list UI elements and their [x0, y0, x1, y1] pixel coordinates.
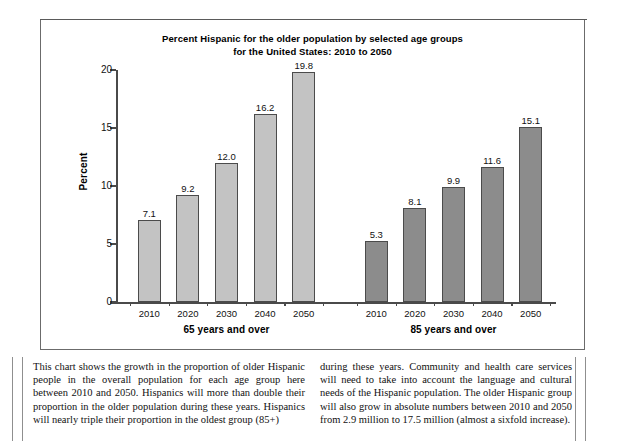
bar: 19.8	[292, 72, 315, 302]
x-axis-label: 2050	[284, 308, 323, 320]
bar: 11.6	[481, 167, 504, 302]
caption-column-right: during these years. Community and health…	[320, 360, 572, 426]
y-tick-label: 10	[101, 179, 112, 192]
bar-value-label: 16.2	[256, 102, 275, 113]
x-tick-mark	[434, 302, 435, 306]
bar-value-label: 9.9	[447, 175, 460, 186]
bar: 12.0	[215, 163, 238, 302]
x-tick-mark	[323, 302, 324, 306]
group-label: 65 years and over	[130, 324, 323, 335]
x-tick-mark	[473, 302, 474, 306]
chart-title-line-2: for the United States: 2010 to 2050	[41, 45, 584, 58]
x-tick-mark	[246, 302, 247, 306]
x-axis-label: 2040	[246, 308, 285, 320]
bar: 8.1	[403, 208, 426, 302]
bar-value-label: 11.6	[483, 155, 501, 166]
caption-block: This chart shows the growth in the propo…	[0, 357, 618, 441]
x-tick-mark	[130, 302, 131, 306]
y-tick-label: 5	[106, 237, 112, 250]
caption-column-left: This chart shows the growth in the propo…	[33, 360, 305, 426]
x-axis-label: 2020	[396, 308, 435, 320]
caption-rule-far-right	[585, 357, 586, 441]
bar-value-label: 19.8	[294, 60, 313, 71]
caption-rule-far-left	[12, 357, 13, 441]
bar: 7.1	[138, 220, 161, 302]
x-axis-label: 2020	[169, 308, 208, 320]
y-tick-label: 20	[101, 63, 112, 76]
bar-value-label: 12.0	[217, 151, 236, 162]
group-label: 85 years and over	[357, 324, 550, 335]
x-tick-mark	[511, 302, 512, 306]
x-tick-mark	[207, 302, 208, 306]
x-tick-mark	[357, 302, 358, 306]
x-tick-mark	[550, 302, 551, 306]
x-axis-label: 2040	[473, 308, 512, 320]
x-axis-label: 2050	[511, 308, 550, 320]
bar-value-label: 15.1	[521, 115, 540, 126]
caption-rule-left	[22, 357, 23, 441]
chart-title: Percent Hispanic for the older populatio…	[41, 32, 584, 58]
chart-title-line-1: Percent Hispanic for the older populatio…	[41, 32, 584, 45]
y-axis-title: Percent	[78, 152, 89, 190]
bar-value-label: 9.2	[181, 183, 194, 194]
x-axis-label: 2030	[434, 308, 473, 320]
bar: 9.9	[442, 187, 465, 302]
bar-value-label: 8.1	[408, 196, 421, 207]
y-tick-label: 15	[101, 121, 112, 134]
plot-area: Percent 05101520 7.19.212.016.219.85.38.…	[116, 70, 556, 302]
x-tick-mark	[396, 302, 397, 306]
bar: 15.1	[519, 127, 542, 302]
bar: 16.2	[254, 114, 277, 302]
chart-frame: Percent Hispanic for the older populatio…	[40, 20, 585, 350]
bar: 5.3	[365, 241, 388, 302]
x-tick-mark	[169, 302, 170, 306]
x-axis-label: 2030	[207, 308, 246, 320]
y-tick-label: 0	[106, 295, 112, 308]
y-axis-line	[116, 70, 118, 302]
bar-value-label: 5.3	[370, 229, 383, 240]
bar-value-label: 7.1	[143, 208, 156, 219]
bar: 9.2	[176, 195, 199, 302]
caption-rule-right	[575, 357, 576, 441]
x-tick-mark	[284, 302, 285, 306]
x-axis-line	[110, 302, 556, 304]
x-axis-label: 2010	[130, 308, 169, 320]
x-axis-label: 2010	[357, 308, 396, 320]
